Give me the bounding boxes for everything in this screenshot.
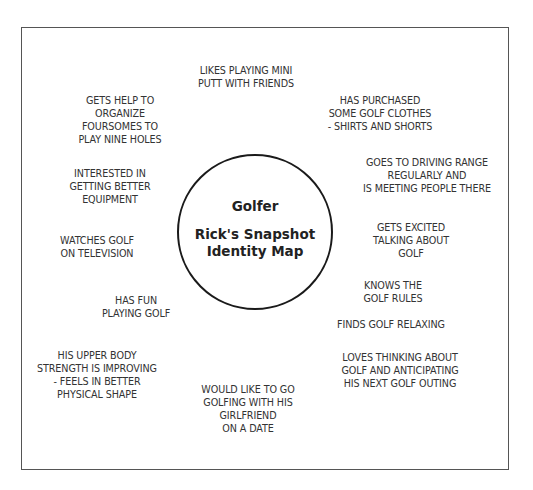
note-golf-clothes: HAS PURCHASED SOME GOLF CLOTHES - SHIRTS… <box>328 94 433 133</box>
note-girlfriend-date: WOULD LIKE TO GO GOLFING WITH HIS GIRLFR… <box>201 383 294 435</box>
center-subtitle-line2: Identity Map <box>177 243 333 259</box>
note-better-equipment: INTERESTED IN GETTING BETTER EQUIPMENT <box>69 167 150 206</box>
note-loves-thinking: LOVES THINKING ABOUT GOLF AND ANTICIPATI… <box>341 351 458 390</box>
note-watches-golf: WATCHES GOLF ON TELEVISION <box>60 234 134 260</box>
note-relaxing: FINDS GOLF RELAXING <box>337 318 445 331</box>
note-has-fun: HAS FUN PLAYING GOLF <box>102 294 170 320</box>
note-driving-range: GOES TO DRIVING RANGE REGULARLY AND IS M… <box>363 156 491 195</box>
note-organize-foursomes: GETS HELP TO ORGANIZE FOURSOMES TO PLAY … <box>78 94 161 146</box>
center-subtitle-line1: Rick's Snapshot <box>177 226 333 242</box>
note-knows-rules: KNOWS THE GOLF RULES <box>363 279 422 305</box>
note-gets-excited: GETS EXCITED TALKING ABOUT GOLF <box>373 221 449 260</box>
center-title: Golfer <box>177 198 333 214</box>
note-upper-body: HIS UPPER BODY STRENGTH IS IMPROVING - F… <box>37 349 157 401</box>
note-mini-putt: LIKES PLAYING MINI PUTT WITH FRIENDS <box>198 64 294 90</box>
